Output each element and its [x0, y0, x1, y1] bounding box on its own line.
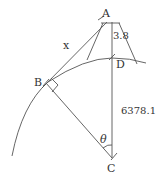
geometry-diagram: A D B C x 3.8 6378.1 θ: [0, 0, 159, 183]
tangent-line-ab: [42, 22, 107, 88]
point-b-label: B: [34, 77, 42, 88]
point-c-label: C: [107, 163, 115, 174]
height-label: 3.8: [113, 31, 129, 41]
point-a-label: A: [102, 8, 110, 19]
radius-line-bc: [46, 83, 112, 158]
radius-label: 6378.1: [121, 106, 156, 116]
tower-left-leg: [87, 23, 103, 60]
point-d-label: D: [116, 59, 125, 70]
diagram-drawing: [0, 0, 159, 183]
angle-theta-label: θ: [100, 134, 107, 145]
tangent-length-label: x: [63, 40, 69, 51]
